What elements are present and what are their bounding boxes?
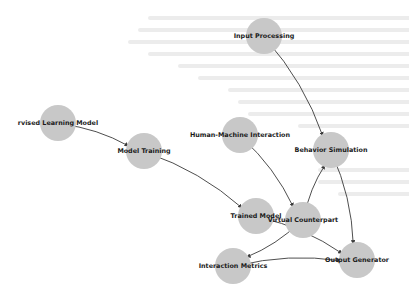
node-label: Input Processing [234, 32, 295, 40]
node-output[interactable]: Output Generator [325, 242, 390, 278]
node-label: Output Generator [325, 256, 390, 264]
node-behavior[interactable]: Behavior Simulation [295, 132, 368, 168]
nodes-layer: rvised Learning ModelModel TrainingInput… [18, 18, 390, 284]
node-hmi[interactable]: Human-Machine Interaction [190, 117, 291, 153]
node-label: Human-Machine Interaction [190, 131, 291, 139]
edge-training-to-trained [147, 153, 242, 208]
node-label: rvised Learning Model [18, 119, 98, 127]
node-label: Behavior Simulation [295, 146, 368, 154]
node-input[interactable]: Input Processing [234, 18, 295, 54]
edge-input-to-behavior [266, 39, 323, 136]
node-label: Virtual Counterpart [268, 216, 338, 224]
node-label: Model Training [117, 147, 171, 155]
node-virtual[interactable]: Virtual Counterpart [268, 202, 338, 238]
node-training[interactable]: Model Training [117, 133, 171, 169]
graph-canvas: rvised Learning ModelModel TrainingInput… [0, 0, 409, 292]
node-supervised[interactable]: rvised Learning Model [18, 105, 98, 141]
node-metrics[interactable]: Interaction Metrics [199, 248, 268, 284]
node-label: Interaction Metrics [199, 262, 268, 270]
